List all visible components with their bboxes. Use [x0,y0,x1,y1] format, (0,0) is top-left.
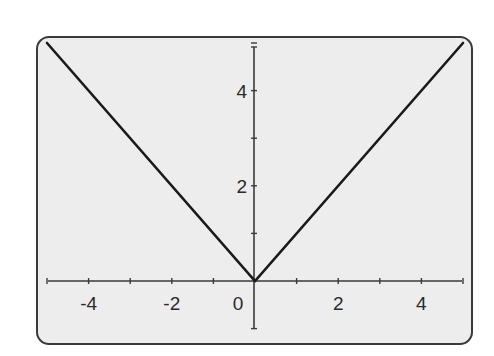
x-tick-label: -2 [163,293,180,314]
y-tick-label: 4 [236,81,247,102]
x-tick-label: 0 [233,293,244,314]
y-tick-label: 2 [236,176,247,197]
chart: -4-2024 24 [0,0,494,356]
x-tick-label: -4 [80,293,97,314]
x-tick-label: 2 [333,293,344,314]
x-tick-label: 4 [416,293,427,314]
